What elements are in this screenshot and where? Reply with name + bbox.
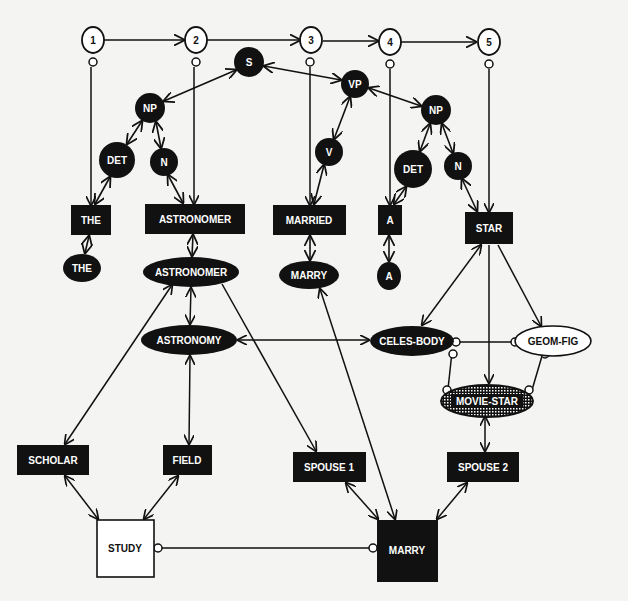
lexeme-node-the[interactable]: THE bbox=[63, 254, 101, 282]
semantic-network-diagram: 1 2 3 4 5 S NP DET bbox=[0, 0, 628, 601]
syntax-node-np-subject[interactable]: NP bbox=[135, 93, 165, 123]
role-nodes: SCHOLAR FIELD SPOUSE 1 SPOUSE 2 bbox=[17, 445, 519, 482]
svg-text:V: V bbox=[326, 147, 333, 158]
svg-text:A: A bbox=[385, 271, 392, 282]
syntax-node-n-subject[interactable]: N bbox=[150, 148, 178, 176]
syntax-node-vp[interactable]: VP bbox=[341, 70, 369, 98]
event-nodes: STUDY MARRY bbox=[97, 520, 438, 582]
svg-text:NP: NP bbox=[143, 103, 157, 114]
position-node-2[interactable]: 2 bbox=[185, 27, 207, 53]
svg-text:NP: NP bbox=[429, 105, 443, 116]
role-node-field[interactable]: FIELD bbox=[163, 445, 212, 475]
position-lines bbox=[91, 67, 489, 212]
concept-node-movie-star[interactable]: MOVIE-STAR bbox=[441, 385, 533, 417]
svg-text:MARRY: MARRY bbox=[389, 545, 426, 556]
lexeme-node-astronomer[interactable]: ASTRONOMER bbox=[143, 257, 239, 287]
svg-text:MOVIE-STAR: MOVIE-STAR bbox=[456, 396, 519, 407]
concept-node-astronomy[interactable]: ASTRONOMY bbox=[141, 325, 237, 355]
position-node-4[interactable]: 4 bbox=[379, 29, 401, 55]
word-node-star[interactable]: STAR bbox=[465, 212, 513, 244]
svg-text:N: N bbox=[454, 161, 461, 172]
svg-text:THE: THE bbox=[72, 263, 92, 274]
concept-node-geom-fig[interactable]: GEOM-FIG bbox=[515, 326, 591, 356]
word-node-a[interactable]: A bbox=[378, 205, 402, 235]
svg-text:MARRY: MARRY bbox=[291, 270, 328, 281]
lexical-links bbox=[85, 235, 389, 261]
svg-text:STUDY: STUDY bbox=[108, 543, 142, 554]
svg-text:CELES-BODY: CELES-BODY bbox=[379, 336, 445, 347]
syntax-node-s[interactable]: S bbox=[234, 47, 264, 77]
word-node-astronomer[interactable]: ASTRONOMER bbox=[145, 204, 245, 234]
lexeme-nodes: THE ASTRONOMER MARRY A bbox=[63, 254, 401, 290]
syntax-node-det-subject[interactable]: DET bbox=[99, 142, 135, 178]
event-node-marry[interactable]: MARRY bbox=[377, 520, 438, 582]
svg-text:4: 4 bbox=[387, 37, 393, 48]
lexeme-node-a[interactable]: A bbox=[377, 262, 401, 290]
svg-text:ASTRONOMER: ASTRONOMER bbox=[159, 214, 232, 225]
syntax-nodes: S NP DET N VP V NP DET bbox=[99, 47, 472, 188]
svg-text:SPOUSE 1: SPOUSE 1 bbox=[304, 462, 354, 473]
svg-text:3: 3 bbox=[308, 35, 314, 46]
word-node-the[interactable]: THE bbox=[71, 205, 111, 235]
svg-text:S: S bbox=[246, 57, 253, 68]
event-node-study[interactable]: STUDY bbox=[97, 520, 154, 577]
syntax-node-det-object[interactable]: DET bbox=[394, 150, 432, 188]
word-node-married[interactable]: MARRIED bbox=[273, 205, 346, 235]
svg-text:MARRIED: MARRIED bbox=[286, 215, 333, 226]
syntax-node-np-object[interactable]: NP bbox=[421, 95, 451, 125]
concept-nodes: ASTRONOMY CELES-BODY GEOM-FIG MOVIE-STAR bbox=[141, 325, 591, 417]
position-node-5[interactable]: 5 bbox=[478, 29, 500, 55]
sequence-links bbox=[104, 40, 476, 42]
svg-text:ASTRONOMER: ASTRONOMER bbox=[155, 267, 228, 278]
svg-text:VP: VP bbox=[348, 79, 362, 90]
svg-text:STAR: STAR bbox=[476, 223, 503, 234]
svg-text:ASTRONOMY: ASTRONOMY bbox=[157, 335, 222, 346]
svg-text:DET: DET bbox=[403, 164, 423, 175]
syntax-node-v[interactable]: V bbox=[315, 138, 343, 166]
role-node-spouse2[interactable]: SPOUSE 2 bbox=[447, 452, 519, 482]
svg-text:A: A bbox=[386, 215, 393, 226]
svg-text:THE: THE bbox=[81, 215, 101, 226]
svg-text:FIELD: FIELD bbox=[173, 455, 202, 466]
svg-text:DET: DET bbox=[107, 155, 127, 166]
svg-text:SPOUSE 2: SPOUSE 2 bbox=[458, 462, 508, 473]
syntax-node-n-object[interactable]: N bbox=[444, 152, 472, 180]
position-node-1[interactable]: 1 bbox=[82, 27, 104, 53]
word-nodes: THE ASTRONOMER MARRIED A STAR bbox=[71, 204, 513, 244]
role-node-spouse1[interactable]: SPOUSE 1 bbox=[293, 452, 366, 482]
svg-text:SCHOLAR: SCHOLAR bbox=[28, 455, 78, 466]
svg-text:2: 2 bbox=[193, 35, 199, 46]
svg-text:1: 1 bbox=[90, 35, 96, 46]
word-position-nodes: 1 2 3 4 5 bbox=[82, 27, 500, 55]
svg-text:GEOM-FIG: GEOM-FIG bbox=[528, 336, 579, 347]
syntax-links bbox=[95, 66, 477, 211]
svg-text:5: 5 bbox=[486, 37, 492, 48]
svg-text:N: N bbox=[160, 157, 167, 168]
role-node-scholar[interactable]: SCHOLAR bbox=[17, 445, 89, 475]
concept-node-celes-body[interactable]: CELES-BODY bbox=[370, 326, 454, 356]
position-node-3[interactable]: 3 bbox=[300, 27, 322, 53]
lexeme-node-marry[interactable]: MARRY bbox=[279, 261, 339, 289]
